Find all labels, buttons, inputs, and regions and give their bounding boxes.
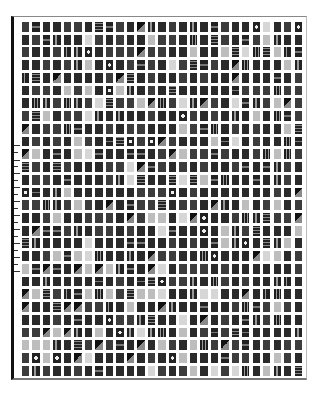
texture-patch — [221, 328, 228, 338]
texture-patch — [106, 302, 113, 312]
texture-patch — [190, 353, 197, 363]
texture-patch — [148, 73, 155, 83]
texture-patch — [43, 238, 50, 248]
texture-patch — [295, 188, 302, 198]
texture-patch — [85, 251, 92, 261]
texture-patch — [169, 175, 176, 185]
texture-patch — [116, 302, 123, 312]
texture-patch — [179, 302, 186, 312]
texture-patch — [127, 328, 134, 338]
texture-patch — [53, 328, 60, 338]
texture-patch — [43, 264, 50, 274]
texture-patch — [200, 366, 207, 376]
texture-patch — [22, 366, 29, 376]
texture-patch — [32, 277, 39, 287]
texture-patch — [253, 213, 260, 223]
texture-patch — [43, 22, 50, 32]
texture-patch — [190, 124, 197, 134]
texture-patch — [53, 137, 60, 147]
texture-patch — [211, 251, 218, 261]
texture-patch — [127, 35, 134, 45]
texture-patch — [232, 340, 239, 350]
texture-patch — [253, 98, 260, 108]
texture-patch — [179, 98, 186, 108]
texture-patch — [74, 111, 81, 121]
texture-patch — [263, 149, 270, 159]
texture-patch — [148, 86, 155, 96]
texture-patch — [274, 366, 281, 376]
texture-patch — [95, 98, 102, 108]
texture-patch — [158, 251, 165, 261]
texture-patch — [169, 328, 176, 338]
texture-patch — [284, 137, 291, 147]
texture-patch — [221, 302, 228, 312]
texture-patch — [106, 328, 113, 338]
texture-patch — [169, 366, 176, 376]
texture-patch — [211, 353, 218, 363]
texture-patch — [116, 98, 123, 108]
texture-patch — [211, 86, 218, 96]
texture-patch — [253, 251, 260, 261]
texture-patch — [284, 47, 291, 57]
texture-patch — [263, 47, 270, 57]
texture-patch — [137, 366, 144, 376]
texture-patch — [127, 251, 134, 261]
texture-patch — [127, 162, 134, 172]
texture-patch — [137, 175, 144, 185]
texture-patch — [64, 226, 71, 236]
texture-patch — [263, 60, 270, 70]
texture-patch — [53, 73, 60, 83]
texture-patch — [106, 251, 113, 261]
texture-patch — [284, 22, 291, 32]
texture-patch — [85, 353, 92, 363]
texture-patch — [85, 22, 92, 32]
texture-patch — [211, 238, 218, 248]
texture-patch — [232, 315, 239, 325]
texture-patch — [106, 238, 113, 248]
texture-patch — [232, 73, 239, 83]
texture-patch — [22, 226, 29, 236]
texture-patch — [190, 277, 197, 287]
texture-patch — [85, 73, 92, 83]
texture-patch — [263, 238, 270, 248]
texture-patch — [64, 277, 71, 287]
texture-patch — [32, 251, 39, 261]
texture-patch — [22, 251, 29, 261]
texture-patch — [32, 47, 39, 57]
texture-patch — [242, 200, 249, 210]
texture-patch — [43, 188, 50, 198]
texture-patch — [22, 124, 29, 134]
texture-patch — [95, 353, 102, 363]
texture-patch — [95, 175, 102, 185]
texture-patch — [137, 353, 144, 363]
texture-patch — [211, 340, 218, 350]
texture-patch — [284, 98, 291, 108]
texture-patch — [263, 213, 270, 223]
texture-patch — [95, 366, 102, 376]
texture-patch — [295, 340, 302, 350]
texture-patch — [232, 149, 239, 159]
texture-patch — [85, 35, 92, 45]
texture-patch — [137, 188, 144, 198]
texture-patch — [253, 149, 260, 159]
texture-patch — [232, 60, 239, 70]
texture-patch — [106, 353, 113, 363]
texture-patch — [295, 328, 302, 338]
texture-patch — [127, 149, 134, 159]
texture-patch — [95, 60, 102, 70]
texture-patch — [22, 47, 29, 57]
texture-patch — [284, 213, 291, 223]
texture-patch — [221, 289, 228, 299]
texture-patch — [263, 226, 270, 236]
texture-patch — [64, 289, 71, 299]
texture-patch — [116, 60, 123, 70]
texture-patch — [43, 60, 50, 70]
texture-patch — [253, 238, 260, 248]
texture-patch — [137, 200, 144, 210]
texture-patch — [232, 86, 239, 96]
texture-patch — [106, 264, 113, 274]
texture-patch — [22, 353, 29, 363]
texture-patch — [148, 22, 155, 32]
texture-patch — [190, 47, 197, 57]
texture-patch — [74, 340, 81, 350]
